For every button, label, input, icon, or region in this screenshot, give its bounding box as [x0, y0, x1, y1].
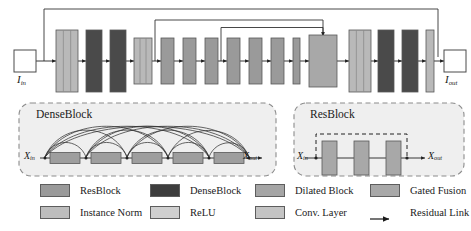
denseblock-unit — [214, 153, 244, 164]
residual-link-arrow-icon — [370, 208, 396, 210]
resblock-out-label: Xout — [428, 150, 442, 161]
legend-label: Dilated Block — [295, 181, 354, 200]
legend-label: Conv. Layer — [295, 203, 347, 222]
denseblock-unit — [91, 153, 121, 164]
denseblock-unit — [50, 153, 80, 164]
legend-label: ReLU — [190, 203, 216, 222]
resblock-unit — [354, 141, 369, 175]
legend-swatch — [40, 206, 70, 219]
resblock-unit — [322, 141, 337, 175]
denseblock-unit — [173, 153, 203, 164]
legend-label: ResBlock — [80, 181, 121, 200]
legend-label: Instance Norm — [80, 203, 142, 222]
legend-label: Gated Fusion — [410, 181, 466, 200]
legend-swatch — [255, 206, 285, 219]
legend-row: Instance NormReLUConv. LayerResidual Lin… — [0, 203, 471, 222]
legend-swatch — [370, 184, 400, 197]
legend-row: ResBlockDenseBlockDilated BlockGated Fus… — [0, 181, 471, 200]
legend-label: DenseBlock — [190, 181, 241, 200]
legend-swatch — [150, 206, 180, 219]
resblock-junction — [405, 156, 408, 159]
denseblock-panel-title: DenseBlock — [36, 108, 92, 120]
resblock-unit — [386, 141, 401, 175]
denseblock-in-label: Xin — [24, 150, 35, 161]
legend-swatch — [150, 184, 180, 197]
legend-swatch — [40, 184, 70, 197]
resblock-in-label: Xin — [297, 150, 308, 161]
legend-swatch — [255, 184, 285, 197]
resblock-panel-title: ResBlock — [310, 108, 355, 120]
legend: ResBlockDenseBlockDilated BlockGated Fus… — [0, 181, 471, 231]
denseblock-unit — [132, 153, 162, 164]
denseblock-out-label: Xout — [243, 150, 257, 161]
figure-canvas: Iin Iout DenseBlock ResBlock Xin Xout Xi… — [0, 0, 471, 231]
legend-label: Residual Link — [410, 203, 469, 222]
